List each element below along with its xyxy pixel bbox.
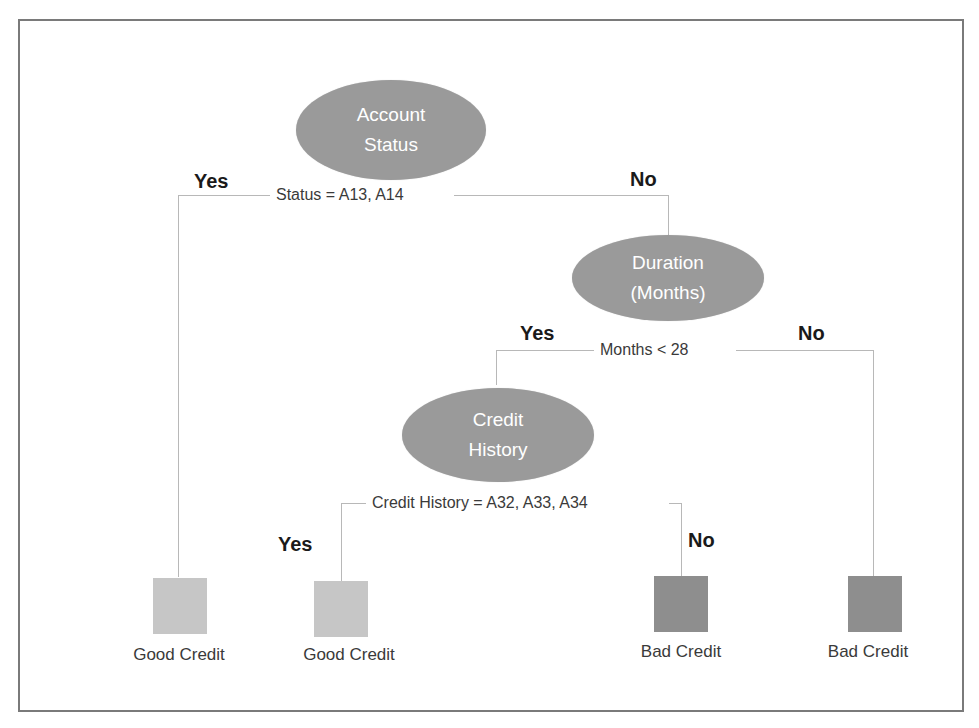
connector-months-right — [736, 350, 874, 351]
connector-status-left — [178, 195, 278, 196]
node-duration-line1: Duration — [632, 248, 704, 278]
node-credit-history: Credit History — [402, 388, 594, 482]
condition-months: Months < 28 — [594, 340, 695, 360]
node-credit-history-line1: Credit — [473, 405, 524, 435]
connector-months-left — [496, 350, 596, 351]
connector-history-left — [341, 503, 366, 504]
leaf-label-bad-credit-2: Bad Credit — [798, 642, 938, 662]
edge-months-no: No — [798, 322, 825, 344]
edge-months-yes: Yes — [520, 322, 554, 344]
connector-status-left-down — [178, 195, 179, 577]
leaf-label-bad-credit-1: Bad Credit — [611, 642, 751, 662]
leaf-label-good-credit-1: Good Credit — [109, 645, 249, 665]
leaf-bad-credit-1 — [654, 576, 708, 632]
node-duration-line2: (Months) — [631, 278, 706, 308]
leaf-good-credit-1 — [153, 578, 207, 634]
node-account-status-line2: Status — [364, 130, 418, 160]
connector-months-left-down — [496, 350, 497, 385]
connector-status-right — [454, 195, 669, 196]
connector-history-right-down — [681, 503, 682, 577]
connector-history-left-down — [341, 503, 342, 583]
edge-history-no: No — [688, 529, 715, 551]
leaf-good-credit-2 — [314, 581, 368, 637]
node-credit-history-line2: History — [468, 435, 527, 465]
leaf-label-good-credit-2: Good Credit — [279, 645, 419, 665]
edge-status-no: No — [630, 168, 657, 190]
condition-status: Status = A13, A14 — [270, 185, 410, 205]
edge-status-yes: Yes — [194, 170, 228, 192]
leaf-bad-credit-2 — [848, 576, 902, 632]
node-duration: Duration (Months) — [572, 235, 764, 321]
edge-history-yes: Yes — [278, 533, 312, 555]
connector-months-right-down — [873, 350, 874, 576]
node-account-status: Account Status — [296, 80, 486, 180]
node-account-status-line1: Account — [357, 100, 426, 130]
condition-credit-history: Credit History = A32, A33, A34 — [366, 493, 594, 513]
